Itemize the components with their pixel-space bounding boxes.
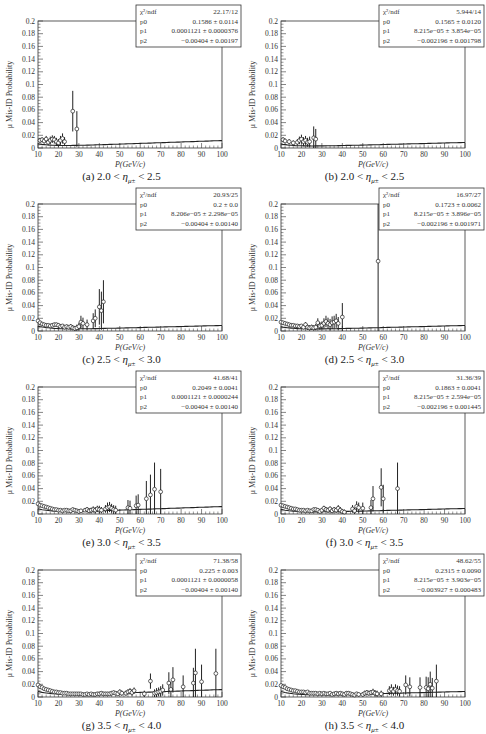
y-tick-label: 0.14 [265, 604, 278, 613]
y-tick-label: 0.06 [22, 471, 35, 480]
data-marker [404, 683, 408, 687]
x-tick-label: 10 [277, 333, 285, 342]
x-tick-label: 50 [359, 333, 367, 342]
y-axis-title: μ Mis-ID Probability [5, 244, 14, 311]
fit-stats-box: χ²/ndf22.17/12p00.1586 ± 0.0114p10.00011… [136, 5, 241, 47]
plot-panel-c: 00.020.040.060.080.10.120.140.160.180.21… [0, 183, 243, 366]
y-tick-label: 0.06 [22, 288, 35, 297]
fit-stats-box: χ²/ndf31.36/39p00.1863 ± 0.0041p18.215e−… [379, 371, 484, 413]
fit-stat-name: p1 [140, 393, 148, 401]
fit-stat-name: χ²/ndf [140, 557, 157, 565]
fit-stat-value: 22.17/12 [213, 8, 238, 16]
fit-stat-value: −0.003927 ± 0.000483 [417, 586, 481, 594]
x-tick-label: 100 [459, 333, 471, 342]
data-marker [353, 509, 357, 513]
x-tick-label: 70 [157, 150, 165, 159]
y-tick-label: 0.18 [265, 578, 278, 587]
data-marker [430, 686, 434, 690]
data-marker [71, 109, 75, 113]
fit-stat-name: χ²/ndf [383, 8, 400, 16]
panel-caption-h: (h) 3.5 < ημ± < 4.0 [243, 719, 486, 734]
y-tick-label: 0.04 [265, 118, 278, 127]
x-tick-label: 70 [157, 333, 165, 342]
data-marker [396, 487, 400, 491]
fit-stat-value: 5.944/14 [456, 8, 481, 16]
x-tick-label: 90 [198, 150, 206, 159]
y-tick-label: 0.14 [22, 238, 35, 247]
y-axis-title: μ Mis-ID Probability [5, 61, 14, 128]
caption-range-high: < 2.5 [379, 170, 404, 182]
data-point [408, 677, 412, 696]
y-tick-label: 0.04 [265, 301, 278, 310]
x-tick-label: 70 [400, 516, 408, 525]
fit-stats-box: χ²/ndf16.97/27p00.1723 ± 0.0062p18.215e−… [379, 188, 484, 230]
y-tick-label: 0.18 [265, 212, 278, 221]
fit-stats-box: χ²/ndf41.68/41p00.2049 ± 0.0041p10.00011… [136, 371, 241, 413]
x-tick-label: 90 [198, 699, 206, 708]
y-tick-label: 0.04 [265, 667, 278, 676]
caption-range-high: < 2.5 [135, 170, 160, 182]
caption-range-high: < 4.0 [379, 719, 404, 731]
y-tick-label: 0.02 [265, 680, 278, 689]
data-point [91, 313, 95, 328]
data-marker [381, 497, 385, 501]
data-point [396, 463, 400, 514]
y-tick-label: 0.16 [22, 42, 35, 51]
data-marker [132, 689, 136, 693]
data-point [161, 684, 165, 695]
fit-stat-value: −0.00404 ± 0.00140 [181, 403, 238, 411]
fit-stat-name: p0 [383, 384, 391, 392]
fit-stat-name: p2 [383, 37, 391, 45]
data-marker [314, 325, 318, 329]
data-marker [426, 687, 430, 691]
y-tick-label: 0.12 [265, 616, 278, 625]
data-marker [63, 140, 67, 144]
x-tick-label: 40 [96, 516, 104, 525]
fit-stat-value: 0.225 ± 0.003 [199, 567, 238, 575]
data-marker [379, 485, 383, 489]
fit-stat-name: p2 [383, 220, 391, 228]
data-point [200, 665, 204, 697]
y-tick-label: 0.06 [22, 105, 35, 114]
x-tick-label: 100 [216, 516, 228, 525]
y-tick-label: 0.14 [22, 55, 35, 64]
fit-stat-value: 0.0001121 ± 0.0000376 [171, 27, 238, 35]
x-tick-label: 10 [277, 150, 285, 159]
data-marker [314, 137, 318, 141]
fit-stat-value: −0.00404 ± 0.00140 [181, 586, 238, 594]
data-marker [375, 692, 379, 696]
y-tick-label: 0.02 [265, 131, 278, 140]
data-marker [99, 309, 103, 313]
fit-stat-name: p2 [383, 403, 391, 411]
data-marker [97, 305, 101, 309]
y-tick-label: 0.14 [265, 238, 278, 247]
y-tick-label: 0.12 [265, 250, 278, 259]
y-tick-label: 0.2 [26, 383, 36, 392]
x-tick-label: 30 [318, 699, 326, 708]
y-tick-label: 0.12 [22, 433, 35, 442]
data-marker [308, 140, 312, 144]
y-tick-label: 0.2 [269, 383, 279, 392]
x-tick-label: 60 [379, 516, 387, 525]
y-tick-label: 0.04 [265, 484, 278, 493]
plot-panel-f: 00.020.040.060.080.10.120.140.160.180.21… [243, 366, 486, 549]
x-tick-label: 50 [116, 150, 124, 159]
data-point [71, 91, 75, 132]
data-point [361, 503, 365, 514]
x-tick-label: 70 [400, 150, 408, 159]
caption-range-high: < 3.5 [378, 536, 403, 548]
data-point [418, 677, 422, 697]
y-tick-label: 0.1 [269, 80, 279, 89]
x-tick-label: 20 [298, 150, 306, 159]
fit-stat-name: p0 [140, 201, 148, 209]
fit-stat-name: χ²/ndf [140, 191, 157, 199]
y-tick-label: 0.12 [22, 250, 35, 259]
fit-stat-value: −0.002196 ± 0.001445 [417, 403, 481, 411]
data-point [81, 318, 85, 329]
data-point [114, 506, 118, 514]
data-marker [75, 127, 79, 131]
fit-stat-value: 8.215e−05 ± 2.594e−05 [414, 393, 481, 401]
x-tick-label: 20 [298, 516, 306, 525]
data-marker [191, 681, 195, 685]
x-tick-label: 10 [34, 516, 42, 525]
